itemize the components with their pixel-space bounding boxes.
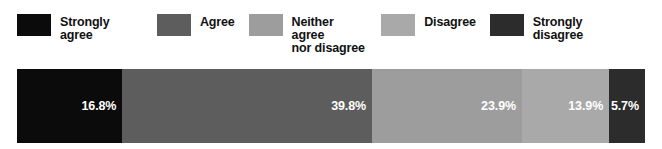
- legend-item-neither[interactable]: Neither agree nor disagree: [249, 12, 368, 46]
- legend-item-strongly-agree[interactable]: Strongly agree: [17, 12, 143, 46]
- legend-swatch-agree: [157, 14, 191, 36]
- legend-item-agree[interactable]: Agree: [157, 12, 235, 46]
- legend-swatch-neither: [249, 14, 283, 36]
- bar-segment-label-agree: 39.8%: [331, 99, 372, 113]
- bar-segment-label-neither: 23.9%: [481, 99, 522, 113]
- legend-item-disagree[interactable]: Disagree: [381, 12, 476, 46]
- bar-segment-disagree[interactable]: 13.9%: [522, 69, 609, 143]
- bar-segment-label-strongly-disagree: 5.7%: [611, 99, 645, 113]
- bar-segment-label-strongly-agree: 16.8%: [81, 99, 122, 113]
- bar-segment-neither[interactable]: 23.9%: [372, 69, 522, 143]
- legend-swatch-strongly-disagree: [490, 14, 524, 36]
- stacked-bar: 16.8% 39.8% 23.9% 13.9% 5.7%: [17, 69, 645, 143]
- legend-item-strongly-disagree[interactable]: Strongly disagree: [490, 12, 633, 46]
- legend-label-agree: Agree: [200, 12, 235, 29]
- legend-label-strongly-agree: Strongly agree: [60, 12, 143, 42]
- chart-legend: Strongly agree Agree Neither agree nor d…: [17, 12, 647, 48]
- likert-stacked-bar-figure: Strongly agree Agree Neither agree nor d…: [0, 0, 662, 149]
- legend-label-strongly-disagree: Strongly disagree: [533, 12, 633, 42]
- legend-swatch-strongly-agree: [17, 14, 51, 36]
- bar-segment-strongly-agree[interactable]: 16.8%: [17, 69, 122, 143]
- bar-segment-agree[interactable]: 39.8%: [122, 69, 372, 143]
- legend-label-disagree: Disagree: [424, 12, 476, 29]
- bar-segment-label-disagree: 13.9%: [568, 99, 609, 113]
- bar-segment-strongly-disagree[interactable]: 5.7%: [609, 69, 645, 143]
- legend-label-neither: Neither agree nor disagree: [292, 12, 368, 55]
- legend-swatch-disagree: [381, 14, 415, 36]
